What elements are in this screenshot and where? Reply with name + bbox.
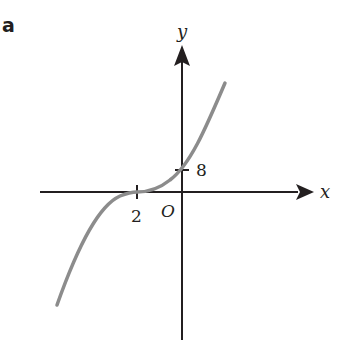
x-axis xyxy=(40,184,314,200)
y-axis-label: y xyxy=(176,21,188,42)
x-axis-label: x xyxy=(320,181,330,202)
x-tick-label: 2 xyxy=(131,206,142,226)
y-tick-label: 8 xyxy=(196,160,207,180)
x-axis-arrow-icon xyxy=(296,184,314,200)
origin-label: O xyxy=(161,201,175,221)
cubic-curve xyxy=(57,83,225,305)
cubic-graph: y x O 2 8 xyxy=(0,0,338,342)
